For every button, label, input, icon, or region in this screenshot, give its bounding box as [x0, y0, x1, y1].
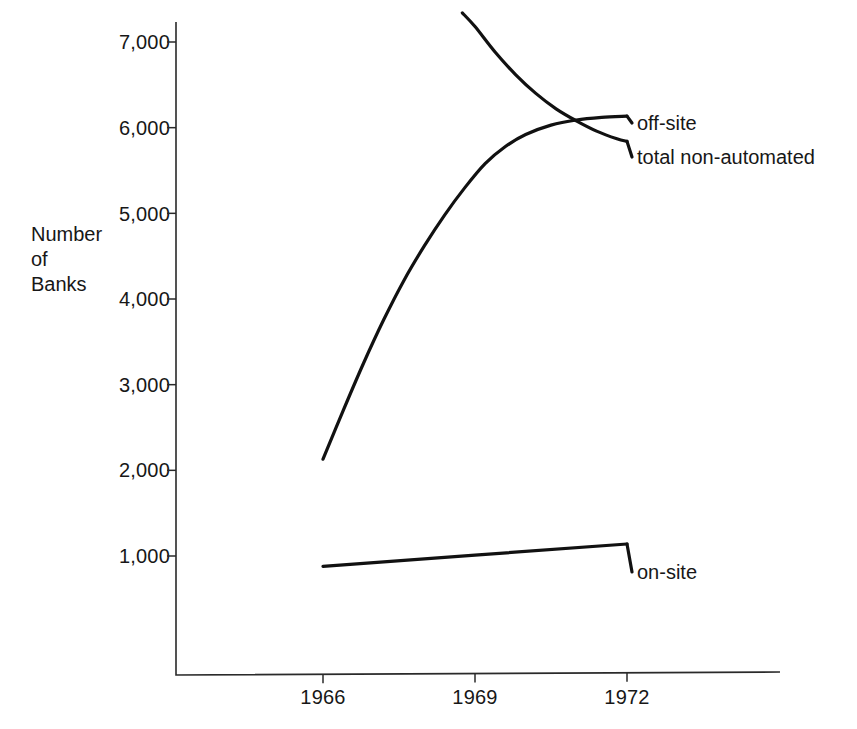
series-curves: [323, 13, 627, 566]
leader-line-off-site: [627, 116, 632, 123]
series-curve-on-site: [323, 544, 627, 566]
plot-area: [0, 0, 857, 729]
series-curve-total-non-automated: [462, 13, 627, 142]
label-leader-lines: [627, 116, 632, 572]
series-curve-off-site: [323, 116, 627, 459]
leader-line-on-site: [627, 544, 632, 572]
chart-figure: Number of Banks 7,000 6,000 5,000 4,000 …: [0, 0, 857, 729]
leader-line-total-non-automated: [627, 141, 632, 157]
y-axis-ticks: [167, 42, 176, 556]
axis-lines: [176, 22, 780, 675]
